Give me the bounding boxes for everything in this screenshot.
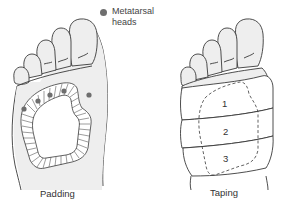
legend: Metatarsal heads bbox=[112, 6, 154, 28]
tape-strip-3-number: 3 bbox=[223, 153, 228, 164]
caption-padding: Padding bbox=[40, 188, 75, 199]
tape-strip-2-number: 2 bbox=[223, 126, 228, 137]
metatarsal-marker-icon bbox=[100, 9, 107, 16]
caption-taping: Taping bbox=[210, 187, 238, 198]
tape-strip-1-number: 1 bbox=[222, 98, 227, 109]
foot-diagram bbox=[0, 0, 293, 208]
legend-line-2: heads bbox=[112, 17, 154, 28]
legend-line-1: Metatarsal bbox=[112, 6, 154, 17]
